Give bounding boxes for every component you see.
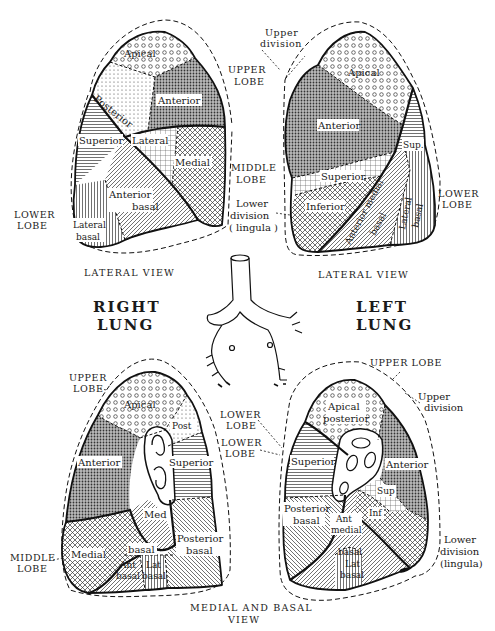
label-lower-lobe-line1: LOWER [438,188,479,199]
label-medial-basal-view-line2: VIEW [227,614,260,625]
label-inferior: Inferior [306,201,345,212]
label-lateral-view-right: LATERAL VIEW [84,267,175,278]
label-lat-basal-line1: Lat [146,560,161,570]
label-superior: Superior [79,135,124,146]
label-lower-division-line3: (lingula) [440,558,483,569]
label-posterior-basal-line2: basal [293,515,320,526]
label-basal: basal [338,547,362,557]
label-lat-basal-line2: basal [340,570,364,580]
label-superior: Superior [169,457,214,468]
label-lower-division-line2: division [440,546,480,557]
label-lateral-basal-line1: Lateral [73,220,106,230]
right-lung-medial-view: UPPER LOBE Apical Post Anterior Superior… [10,359,262,597]
label-upper-lobe-line2: LOBE [73,383,103,394]
label-lower-division-line2: division [230,210,270,221]
label-lateral-view-left: LATERAL VIEW [318,269,409,280]
label-ant-medial-line2: medial [331,525,362,535]
label-apical-posterior-line1: Apical [327,401,360,412]
label-posterior-basal-line1: Posterior [177,533,223,544]
label-superior: Superior [291,456,336,467]
label-lower-lobe-line2: LOBE [442,199,472,210]
label-inf: Inf [369,508,382,518]
left-lung-medial-view: UPPER LOBE Upper division Apical posteri… [220,357,483,600]
label-upper-lobe-line1: UPPER [69,372,107,383]
label-lower-lobe-line1: LOWER [14,209,55,220]
label-lower-lobe-line1: LOWER [221,437,262,448]
label-lower-lobe-line2: LOBE [17,220,47,231]
label-medial-basal-view-line1: MEDIAL AND BASAL [190,602,313,613]
label-anterior: Anterior [385,459,429,470]
label-anterior-basal-line1: Anterior [108,189,152,200]
right-lung-title-line1: RIGHT [93,298,161,316]
label-apical: Apical [123,399,156,410]
label-upper-division-line2: division [424,402,464,413]
label-middle-lobe-line1: MIDDLE [10,552,56,563]
left-lung-title-line1: LEFT [356,298,408,316]
label-lower-lobe-line1: LOWER [220,409,261,420]
label-lateral: Lateral [132,135,168,146]
label-upper-lobe: UPPER LOBE [370,357,442,368]
label-ant-medial-line1: Ant [335,514,352,524]
label-posterior-basal-line2: basal [186,545,213,556]
label-anterior: Anterior [317,120,361,131]
label-post: Post [172,421,192,431]
label-medial: Medial [175,157,210,168]
label-posterior-basal-line1: Posterior [284,503,330,514]
left-lung-lateral-view: Upper division Apical Anterior Sup. Supe… [229,22,479,280]
label-med-basal: basal [128,544,155,555]
bronchial-tree-icon [206,255,302,387]
label-upper-division-line2: division [260,38,302,49]
label-anterior: Anterior [77,457,121,468]
label-middle-lobe-line2: LOBE [17,563,47,574]
label-lat-basal-line2: basal [142,571,166,581]
label-lower-division-line3: ( lingula ) [229,222,278,233]
label-superior: Superior [321,171,366,182]
right-lung-title-line2: LUNG [97,316,154,334]
label-med: Med [144,509,167,520]
label-apical: Apical [123,48,156,59]
label-lower-division-line1: Lower [444,534,476,545]
label-upper-division-line1: Upper [418,391,450,402]
label-lat-basal-line1: Lat [345,559,360,569]
label-middle-lobe-line1: MIDDLE [231,162,277,173]
label-anterior: Anterior [157,95,201,106]
label-lower-division-line1: Lower [236,198,268,209]
left-lung-title-line2: LUNG [356,316,413,334]
label-upper-lobe-line1: UPPER [228,64,266,75]
label-apical-posterior-line2: posterior [323,413,369,424]
label-apical: Apical [347,67,380,78]
label-anterior-basal-line2: basal [132,201,159,212]
label-ant-basal-line1: Ant [119,560,136,570]
label-lower-lobe-line2: LOBE [225,448,255,459]
label-lateral-basal-line2: basal [76,232,100,242]
label-upper-lobe-line2: LOBE [234,76,264,87]
label-medial: Medial [71,549,106,560]
right-lung-lateral-view: Apical Posterior Anterior Superior Later… [14,20,277,278]
label-middle-lobe-line2: LOBE [236,174,266,185]
label-ant-basal-line2: basal [116,571,140,581]
label-sup: Sup [377,486,395,496]
label-lower-lobe-line2: LOBE [226,420,256,431]
lung-segments-diagram: Apical Posterior Anterior Superior Later… [0,0,495,631]
label-upper-division-line1: Upper [265,27,298,38]
label-sup: Sup. [403,140,424,150]
